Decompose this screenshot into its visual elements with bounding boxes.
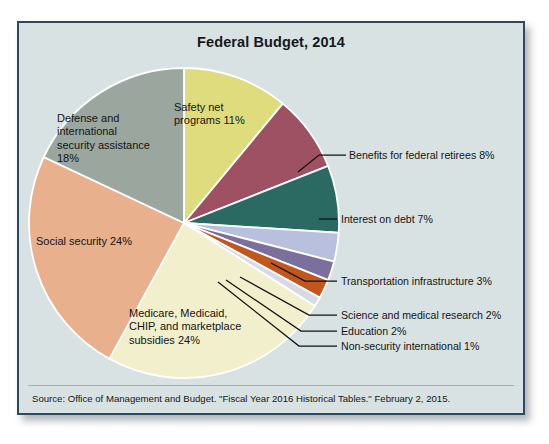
slice-label-medicare: Medicare, Medicaid, CHIP, and marketplac…: [129, 307, 241, 347]
callout-label-nonsecurity: Non-security international 1%: [341, 340, 479, 352]
callout-label-interest: Interest on debt 7%: [341, 213, 433, 225]
slice-label-social-security: Social security 24%: [36, 235, 132, 248]
pie-chart: [19, 23, 525, 415]
figure-root: Federal Budget, 2014 Safety net programs…: [0, 0, 549, 444]
slice-label-safety-net: Safety net programs 11%: [174, 101, 245, 128]
source-note: Source: Office of Management and Budget.…: [32, 393, 450, 404]
callout-label-education: Education 2%: [341, 325, 406, 337]
slice-label-defense: Defense and international security assis…: [57, 112, 150, 165]
callout-label-transportation: Transportation infrastructure 3%: [341, 275, 492, 287]
pie-svg: [19, 23, 525, 415]
callout-label-retirees: Benefits for federal retirees 8%: [349, 149, 494, 161]
chart-panel: Federal Budget, 2014 Safety net programs…: [17, 21, 525, 415]
footer-divider: [28, 385, 514, 386]
callout-label-science: Science and medical research 2%: [341, 309, 501, 321]
